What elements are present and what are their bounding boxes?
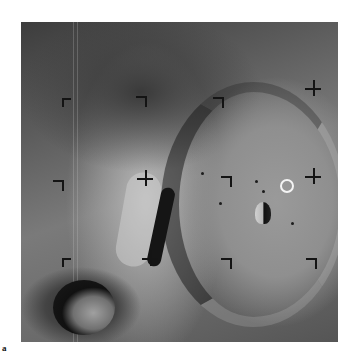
- small-pit: [255, 180, 258, 183]
- small-pit: [201, 172, 204, 175]
- small-pit: [262, 190, 265, 193]
- crater-rim: [161, 82, 338, 327]
- secondary-crater: [53, 280, 115, 335]
- lunar-crater-photo: [21, 22, 338, 342]
- central-peak: [255, 202, 271, 224]
- small-pit: [291, 222, 294, 225]
- highlight-ring: [280, 179, 294, 193]
- panel-label: a: [2, 343, 7, 353]
- small-pit: [219, 202, 222, 205]
